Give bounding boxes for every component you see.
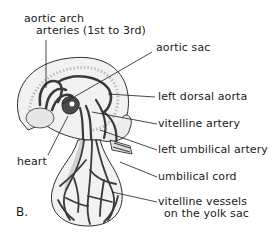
head-region <box>26 108 54 128</box>
label-left-umbilical-artery: left umbilical artery <box>158 144 268 156</box>
label-heart: heart <box>17 156 47 168</box>
umbilical-cord-shape <box>110 140 132 154</box>
label-vitelline-vessels-line2: on the yolk sac <box>158 208 249 220</box>
leader-umbilical-cord <box>120 162 157 177</box>
label-vitelline-vessels: vitelline vessels on the yolk sac <box>158 196 249 220</box>
label-left-dorsal-aorta: left dorsal aorta <box>158 91 247 103</box>
label-vitelline-artery: vitelline artery <box>158 118 240 130</box>
label-aortic-arch-line2: arteries (1st to 3rd) <box>24 25 146 37</box>
label-aortic-sac: aortic sac <box>156 42 210 54</box>
embryo-diagram: aortic arch arteries (1st to 3rd) aortic… <box>0 0 272 233</box>
label-umbilical-cord: umbilical cord <box>158 171 237 183</box>
panel-letter: B. <box>16 206 28 218</box>
label-aortic-arch-arteries: aortic arch arteries (1st to 3rd) <box>24 13 146 37</box>
